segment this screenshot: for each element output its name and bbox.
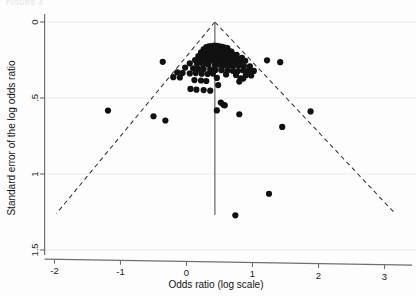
data-points-group bbox=[105, 42, 314, 218]
data-point bbox=[177, 74, 183, 80]
funnel-left-limit bbox=[56, 22, 214, 214]
data-point bbox=[160, 59, 166, 65]
data-point bbox=[236, 111, 242, 117]
data-point bbox=[193, 87, 199, 93]
data-point bbox=[199, 71, 205, 77]
data-point bbox=[193, 70, 199, 76]
data-point bbox=[170, 74, 176, 80]
data-point bbox=[277, 59, 283, 65]
funnel-plot-figure: FIGURE 4 -2-10123 0.511.5 Odds ratio (lo… bbox=[0, 0, 416, 296]
data-point bbox=[201, 87, 207, 93]
x-tick-label--1: -1 bbox=[116, 266, 124, 277]
data-point bbox=[198, 77, 204, 83]
x-tick-label-0: 0 bbox=[184, 267, 189, 278]
data-point bbox=[191, 77, 197, 83]
data-point bbox=[236, 62, 242, 68]
x-tick-label-3: 3 bbox=[382, 271, 387, 282]
data-point bbox=[205, 71, 211, 77]
data-point bbox=[215, 82, 221, 88]
data-point bbox=[266, 191, 272, 197]
y-axis-ticks: 0.511.5 bbox=[29, 19, 44, 256]
x-axis-title: Odds ratio (log scale) bbox=[168, 279, 263, 290]
data-point bbox=[218, 67, 224, 73]
data-point bbox=[307, 108, 313, 114]
data-point bbox=[187, 70, 193, 76]
data-point bbox=[232, 212, 238, 218]
y-tick-label-.5: .5 bbox=[29, 94, 40, 102]
y-tick-label-1.5: 1.5 bbox=[29, 243, 40, 256]
funnel-right-limit bbox=[215, 22, 395, 214]
data-point bbox=[264, 57, 270, 63]
data-point bbox=[248, 72, 254, 78]
y-axis-title: Standard error of the log odds ratio bbox=[6, 60, 17, 216]
data-point bbox=[214, 75, 220, 81]
y-tick-label-1: 1 bbox=[29, 171, 40, 176]
x-tick-label-2: 2 bbox=[316, 270, 321, 281]
x-tick-label--2: -2 bbox=[50, 265, 58, 276]
data-point bbox=[203, 78, 209, 84]
data-point bbox=[150, 113, 156, 119]
data-point bbox=[236, 78, 242, 84]
chart-canvas: -2-10123 0.511.5 Odds ratio (log scale) … bbox=[0, 0, 416, 296]
data-point bbox=[182, 65, 188, 71]
data-point bbox=[214, 107, 220, 113]
x-tick-label-1: 1 bbox=[250, 268, 255, 279]
data-point bbox=[207, 88, 213, 94]
data-point bbox=[242, 58, 248, 64]
data-point bbox=[162, 117, 168, 123]
data-point bbox=[279, 124, 285, 130]
data-point bbox=[222, 102, 228, 108]
x-axis-line bbox=[45, 259, 412, 265]
data-point bbox=[105, 108, 111, 114]
data-point bbox=[223, 71, 229, 77]
data-point bbox=[187, 86, 193, 92]
y-tick-label-0: 0 bbox=[29, 19, 40, 24]
